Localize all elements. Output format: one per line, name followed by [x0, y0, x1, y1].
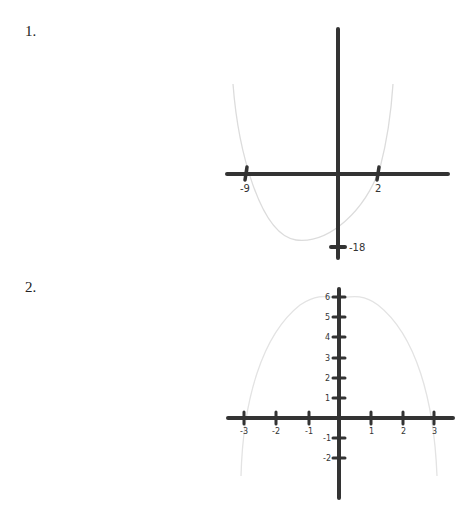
graph-1-label-x-left: -9 — [240, 183, 250, 194]
graph-2-x-label: -3 — [240, 427, 248, 436]
graph-2: -3 -2 -1 1 2 3 6 5 4 3 2 1 -1 -2 — [228, 289, 453, 498]
graph-2-y-label: 5 — [325, 313, 330, 322]
graph-2-y-label: 4 — [325, 333, 330, 342]
graph-2-x-label: -1 — [305, 427, 313, 436]
graph-2-y-label: 3 — [325, 354, 330, 363]
graph-2-x-label: 1 — [369, 427, 374, 436]
graph-1-tick-x-left — [245, 167, 247, 180]
graph-2-y-label: 2 — [325, 374, 330, 383]
graph-1-tick-x-right — [377, 167, 379, 180]
graph-1-parabola — [233, 84, 393, 240]
graph-2-x-label: 3 — [432, 427, 437, 436]
graph-2-y-label: -1 — [323, 434, 331, 443]
graphs-canvas: -9 2 -18 -3 -2 -1 1 2 3 — [0, 0, 472, 521]
graph-2-y-label: -2 — [323, 454, 331, 463]
graph-1: -9 2 -18 — [227, 29, 448, 258]
graph-2-y-label: 1 — [325, 394, 330, 403]
graph-2-x-label: 2 — [401, 427, 406, 436]
graph-2-y-label: 6 — [325, 293, 330, 302]
graph-2-x-label: -2 — [272, 427, 280, 436]
graph-1-label-x-right: 2 — [375, 183, 381, 194]
graph-1-label-y-bottom: -18 — [349, 242, 365, 253]
